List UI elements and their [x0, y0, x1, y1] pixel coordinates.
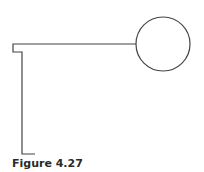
figure-diagram [0, 0, 204, 172]
circle-shape [136, 17, 190, 71]
connector-line [13, 44, 136, 154]
figure-caption: Figure 4.27 [12, 157, 83, 170]
